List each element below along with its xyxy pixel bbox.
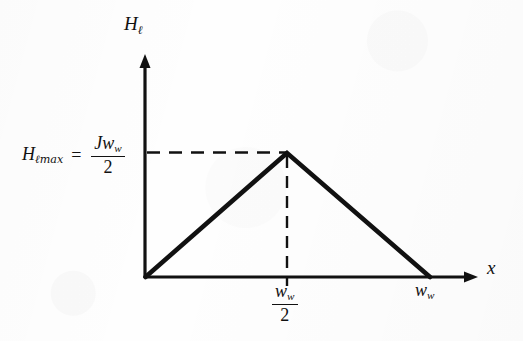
x-tick-mid-numerator: ww: [272, 282, 298, 305]
x-tick-mid-numerator-main: w: [275, 281, 287, 301]
equals-sign: =: [69, 146, 83, 164]
y-axis-title-subscript: ℓ: [138, 23, 143, 37]
x-axis-title: x: [487, 258, 495, 277]
x-tick-label-mid: ww 2: [270, 282, 300, 324]
y-value-fraction: Jww 2: [89, 134, 127, 176]
y-axis-title-main: H: [124, 13, 138, 34]
y-value-numerator-subscript: w: [114, 142, 122, 154]
y-value-fraction-denominator: 2: [91, 157, 125, 176]
y-value-label-lhs-subscript: ℓmax: [35, 153, 63, 166]
x-tick-mid-fraction: ww 2: [270, 282, 300, 324]
x-tick-mid-numerator-subscript: w: [287, 290, 295, 302]
x-axis-arrowhead: [464, 272, 478, 283]
y-axis-title: Hℓ: [124, 14, 143, 36]
y-value-label: Hℓmax = Jww 2: [22, 134, 127, 176]
y-axis-arrowhead: [140, 54, 151, 68]
x-tick-label-right: ww: [415, 281, 435, 302]
y-value-label-lhs-main: H: [22, 144, 35, 164]
x-tick-mid-denominator: 2: [272, 305, 298, 324]
figure-canvas: Hℓ x Hℓmax = Jww 2 ww 2 ww: [0, 0, 523, 341]
y-axis-group: [140, 54, 151, 278]
x-tick-right-subscript: w: [427, 289, 435, 301]
y-value-numerator-main: Jw: [94, 133, 114, 153]
y-value-label-lhs: Hℓmax: [22, 145, 63, 166]
y-value-fraction-numerator: Jww: [91, 134, 125, 157]
x-tick-right-main: w: [415, 280, 427, 300]
x-axis-title-main: x: [487, 257, 495, 278]
